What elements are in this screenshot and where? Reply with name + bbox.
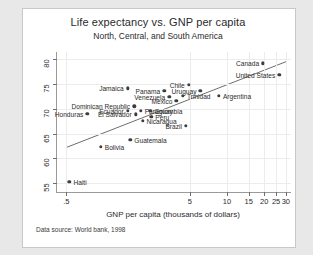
x-tick-label: 30 [282, 197, 290, 206]
y-tick-label: 70 [42, 109, 51, 117]
data-point-label: Canada [236, 60, 259, 67]
y-tick-label: 80 [42, 60, 51, 68]
x-tick [249, 192, 250, 196]
data-point-label: Guatemala [134, 136, 166, 143]
x-tick [227, 192, 228, 196]
y-gridline [57, 134, 291, 135]
y-tick [53, 84, 57, 85]
x-gridline [286, 52, 287, 192]
x-tick-label: .5 [63, 197, 69, 206]
y-tick-label: 65 [42, 134, 51, 142]
x-tick [66, 192, 67, 196]
x-tick [264, 192, 265, 196]
data-point-label: Brazil [165, 122, 182, 129]
x-tick-label: 20 [260, 197, 268, 206]
y-tick [53, 59, 57, 60]
x-tick-label: 25 [272, 197, 280, 206]
data-source-note: Data source: World bank, 1998 [36, 226, 126, 233]
data-point-label: El Salvador [98, 111, 132, 118]
data-point-label: Argentina [223, 93, 251, 100]
x-gridline [66, 52, 67, 192]
x-tick [286, 192, 287, 196]
x-axis-title: GNP per capita (thousands of dollars) [56, 210, 290, 219]
data-point-label: Jamaica [99, 85, 124, 92]
chart-screenshot: Life expectancy vs. GNP per capita North… [0, 0, 313, 255]
y-tick [53, 158, 57, 159]
data-point-label: Trinidad [187, 92, 211, 99]
chart-subtitle: North, Central, and South America [22, 31, 294, 41]
y-tick-label: 55 [42, 183, 51, 191]
y-tick-label: 75 [42, 84, 51, 92]
data-point-label: Bolivia [105, 143, 124, 150]
y-tick [53, 183, 57, 184]
chart-title: Life expectancy vs. GNP per capita [22, 16, 294, 28]
data-point-label: United States [236, 71, 276, 78]
x-gridline [227, 52, 228, 192]
x-tick-label: 15 [245, 197, 253, 206]
plot-area: 556065707580.551015202530CanadaUnited St… [56, 52, 291, 193]
y-tick [53, 134, 57, 135]
x-tick [276, 192, 277, 196]
y-gridline [57, 183, 291, 184]
x-tick [190, 192, 191, 196]
y-tick-label: 60 [42, 159, 51, 167]
data-point-label: Honduras [55, 110, 84, 117]
y-gridline [57, 158, 291, 159]
x-tick-label: 5 [188, 197, 192, 206]
data-point-label: Haiti [73, 179, 86, 186]
x-tick-label: 10 [223, 197, 231, 206]
x-gridline [190, 52, 191, 192]
data-point-label: Mexico [152, 97, 173, 104]
